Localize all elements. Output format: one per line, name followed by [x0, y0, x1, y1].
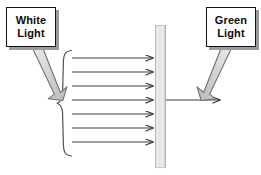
white-light-block-arrow [31, 45, 67, 101]
white-light-label-line2: Light [17, 27, 44, 40]
white-light-label-line1: White [16, 14, 46, 27]
green-light-block-arrow [197, 45, 233, 101]
white-light-rays [72, 58, 153, 142]
green-filter-bar [155, 25, 166, 168]
green-light-label-line1: Green [215, 14, 247, 27]
diagram-canvas: White Light Green Light [0, 0, 261, 175]
ray-bundle-brace [57, 51, 72, 157]
green-light-label-line2: Light [217, 27, 244, 40]
white-light-label: White Light [6, 7, 56, 47]
green-light-label: Green Light [206, 7, 256, 47]
